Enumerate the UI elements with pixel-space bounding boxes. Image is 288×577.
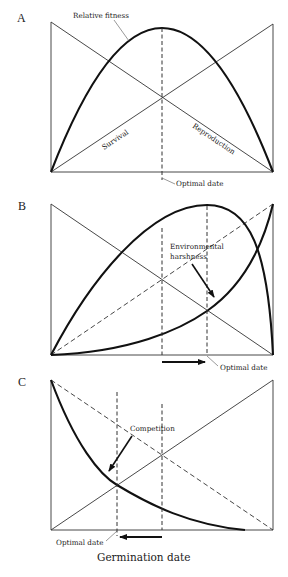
- panel-b-optimal-label: Optimal date: [220, 363, 267, 372]
- panel-a-letter: A: [17, 11, 26, 25]
- panel-b-optimal-leader: [207, 356, 218, 366]
- germination-figure: A Optimal date Relative fitness Survival…: [0, 0, 288, 577]
- panel-c-letter: C: [18, 375, 26, 389]
- panel-c-competition-label: Competition: [130, 424, 175, 433]
- panel-a-optimal-leader: [162, 178, 175, 184]
- panel-a: A Optimal date Relative fitness Survival…: [17, 11, 273, 188]
- panel-a-optimal-label: Optimal date: [176, 179, 223, 188]
- panel-a-fitness-leader: [114, 20, 129, 41]
- panel-c-reproduction-competition-curve: [51, 380, 245, 530]
- panel-a-reproduction-label: Reproduction: [191, 121, 237, 156]
- panel-c-competition-arrow: [109, 436, 132, 471]
- panel-a-fitness-label: Relative fitness: [73, 11, 129, 20]
- x-axis-title: Germination date: [97, 551, 190, 563]
- panel-c-optimal-leader: [106, 531, 117, 541]
- panel-c-optimal-label: Optimal date: [56, 538, 103, 547]
- panel-c: C Competition Optimal date: [18, 375, 273, 547]
- panel-b-harshness-label-line1: Environmental: [170, 242, 224, 251]
- panel-b-letter: B: [18, 199, 26, 213]
- panel-b: B Environmental harshness Optimal date: [18, 199, 273, 372]
- panel-b-harshness-label-line2: harshness: [170, 252, 207, 261]
- panel-a-survival-label: Survival: [100, 127, 131, 152]
- panel-b-harshness-arrow: [192, 264, 214, 297]
